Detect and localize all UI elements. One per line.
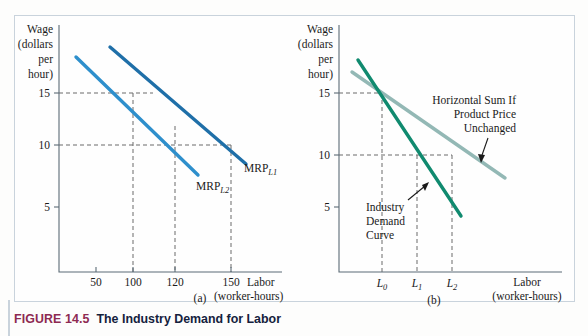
curve-mrp-l1 <box>110 47 246 164</box>
panel-b-ylabel-line-1: Wage <box>307 23 333 36</box>
figure-title: The Industry Demand for Labor <box>96 312 281 326</box>
annotation-industry-demand-line-2: Demand <box>366 215 405 227</box>
annotation-industry-demand-line-1: Industry <box>366 201 405 214</box>
panel-a-ytick-label-10: 10 <box>39 139 51 151</box>
curve-label-mrp-l1: MRPL1 <box>244 162 277 177</box>
curve-mrp-l2 <box>76 57 198 175</box>
panel-a-xtick-label-150: 150 <box>222 276 240 288</box>
panel-a-ylabel-line-4: hour) <box>28 68 53 81</box>
panel-b-xlabel-line-1: Labor <box>513 276 541 288</box>
annotation-arrow-industry-demand <box>408 182 429 200</box>
panel-a-xlabel-line-2: (worker-hours) <box>214 290 284 303</box>
panel-a-ytick-label-15: 15 <box>39 87 51 99</box>
caption-left-rule <box>8 300 10 336</box>
figure-number: FIGURE 14.5 <box>14 312 89 326</box>
panel-b-ytick-label-5: 5 <box>324 201 330 213</box>
panel-b-xtick-label-l1: L1 <box>411 277 423 292</box>
annotation-horizontal-sum-line-3: Unchanged <box>464 122 517 135</box>
panel-b-xtick-label-l2: L2 <box>446 277 458 292</box>
panel-a-xtick-label-100: 100 <box>124 276 142 288</box>
annotation-horizontal-sum-line-2: Product Price <box>454 108 516 120</box>
panel-b-ytick-label-10: 10 <box>319 149 331 161</box>
panel-a-ylabel-line-1: Wage <box>27 23 53 36</box>
panel-b-ylabel-line-2: (dollars <box>298 38 334 51</box>
panel-a-ylabel-line-2: (dollars <box>18 38 54 51</box>
panel-a-xlabel-line-1: Labor <box>247 276 275 288</box>
figure-caption: FIGURE 14.5 The Industry Demand for Labo… <box>14 305 574 333</box>
panel-a-ytick-label-5: 5 <box>44 201 50 213</box>
panel-b: Wage (dollars per hour) 15 10 5 L0 L1 L2… <box>298 23 562 307</box>
panel-b-xtick-label-l0: L0 <box>376 277 388 292</box>
panel-a-xtick-label-50: 50 <box>90 276 102 288</box>
annotation-horizontal-sum-line-1: Horizontal Sum If <box>432 94 516 106</box>
annotation-industry-demand-line-3: Curve <box>366 229 394 241</box>
panel-a: Wage (dollars per hour) 15 10 5 50 100 1… <box>18 23 284 305</box>
panel-b-ytick-label-15: 15 <box>319 87 331 99</box>
panel-a-ylabel-line-3: per <box>38 53 53 66</box>
panel-a-xtick-label-120: 120 <box>166 276 184 288</box>
figure-container: Wage (dollars per hour) 15 10 5 50 100 1… <box>0 0 588 336</box>
panel-b-xlabel-line-2: (worker-hours) <box>492 290 562 303</box>
panel-b-ylabel-line-4: hour) <box>308 68 333 81</box>
figure-plot: Wage (dollars per hour) 15 10 5 50 100 1… <box>0 0 588 336</box>
panel-a-tag: (a) <box>194 292 207 305</box>
panel-b-ylabel-line-3: per <box>318 53 333 66</box>
curve-label-mrp-l2: MRPL2 <box>196 180 229 195</box>
